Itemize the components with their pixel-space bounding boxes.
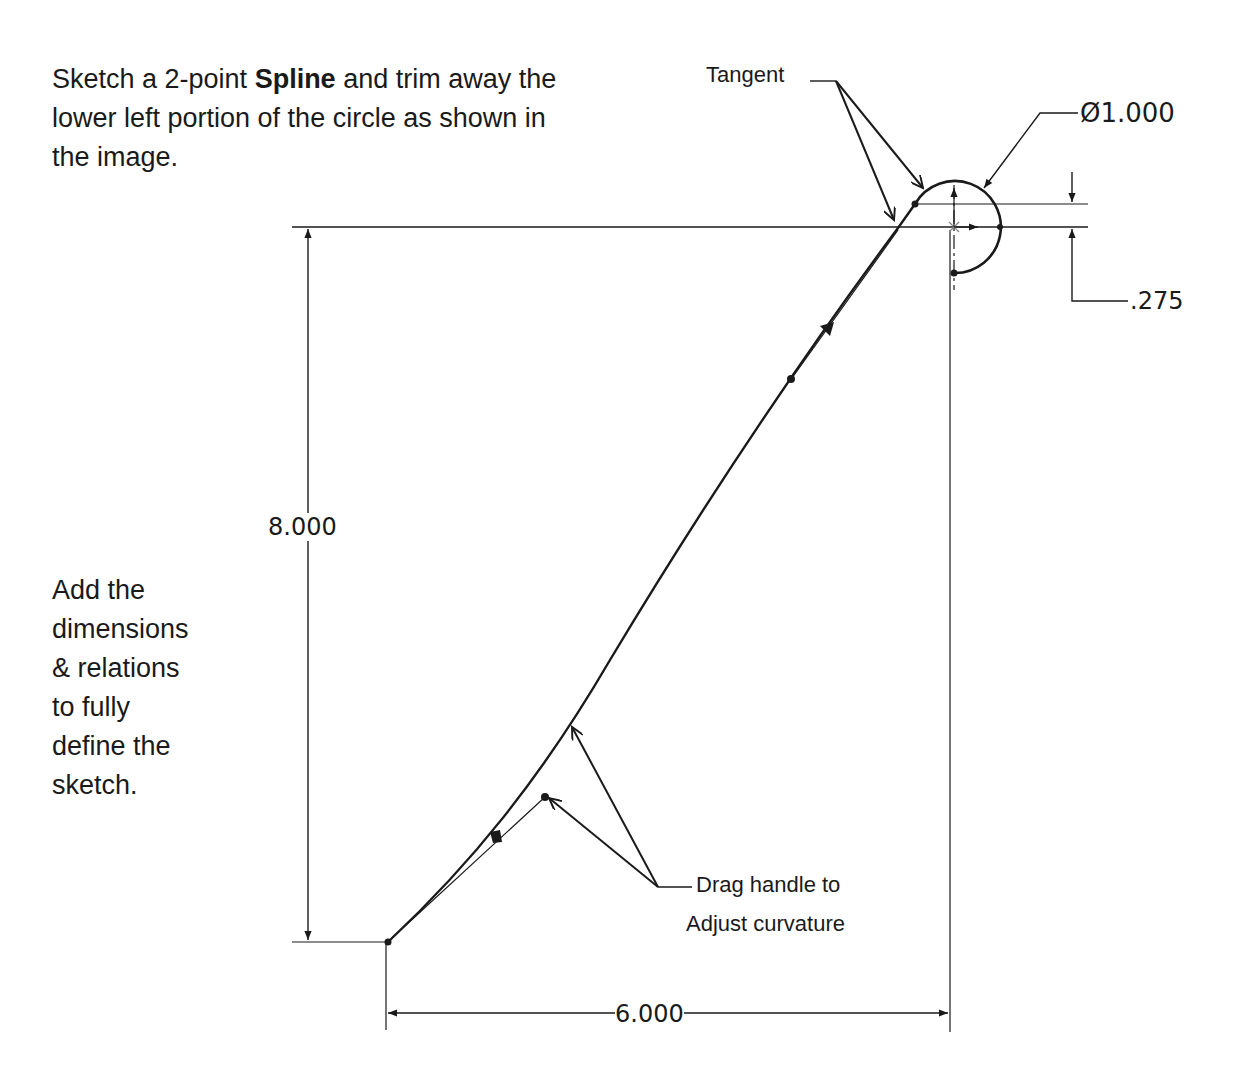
upper-handle-grip[interactable] bbox=[787, 375, 795, 383]
left-instruction-line: sketch. bbox=[52, 766, 252, 805]
tangent-callout: Tangent bbox=[706, 62, 784, 88]
instruction-text-prefix: Sketch a 2-point bbox=[52, 64, 255, 94]
lower-spline-handle[interactable] bbox=[392, 797, 545, 938]
spline-curve bbox=[388, 204, 915, 942]
offset-arrow-bottom bbox=[1072, 229, 1128, 301]
lower-handle-diamond bbox=[490, 830, 502, 843]
left-instruction-line: to fully bbox=[52, 688, 252, 727]
drag-handle-callout-line2: Adjust curvature bbox=[686, 911, 845, 937]
tangent-leader-1 bbox=[836, 81, 923, 188]
arc-quadrant-point bbox=[997, 224, 1003, 230]
arc-end-point bbox=[951, 270, 958, 277]
spline-start-point bbox=[385, 939, 392, 946]
top-instructions: Sketch a 2-point Spline and trim away th… bbox=[52, 60, 572, 177]
height-dimension[interactable]: 8.000 bbox=[268, 513, 337, 541]
offset-dimension[interactable]: .275 bbox=[1130, 287, 1183, 315]
drag-leader-2 bbox=[549, 798, 658, 887]
drag-leader-1 bbox=[572, 727, 658, 887]
tangent-leader-2 bbox=[836, 81, 894, 220]
lower-handle-grip[interactable] bbox=[541, 793, 549, 801]
diameter-leader bbox=[984, 113, 1078, 188]
spline-keyword: Spline bbox=[255, 64, 336, 94]
left-instruction-line: define the bbox=[52, 727, 252, 766]
width-dimension[interactable]: 6.000 bbox=[615, 1000, 684, 1028]
left-instructions: Add the dimensions & relations to fully … bbox=[52, 571, 252, 805]
diameter-dimension[interactable]: Ø1.000 bbox=[1080, 98, 1175, 128]
drag-handle-callout-line1: Drag handle to bbox=[696, 872, 840, 898]
left-instruction-line: dimensions bbox=[52, 610, 252, 649]
left-instruction-line: & relations bbox=[52, 649, 252, 688]
left-instruction-line: Add the bbox=[52, 571, 252, 610]
upper-spline-handle[interactable] bbox=[792, 230, 898, 378]
